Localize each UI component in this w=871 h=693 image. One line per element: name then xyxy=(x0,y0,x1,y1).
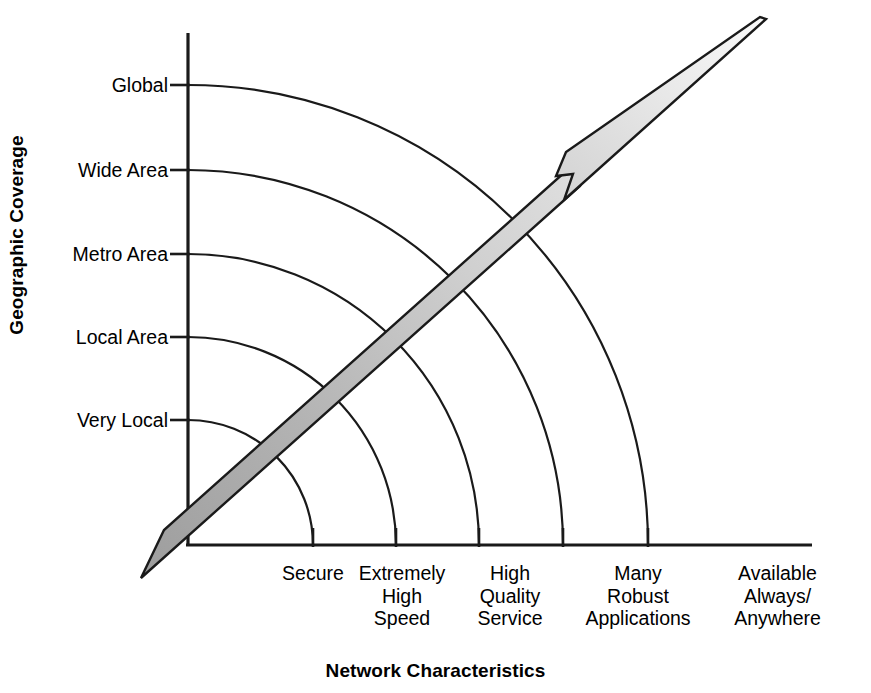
x-tick-label-extremely-high-speed-line-3: Speed xyxy=(340,607,464,630)
x-tick-label-available-always-anywhere: Available Always/ Anywhere xyxy=(710,562,845,630)
x-tick-label-high-quality-service: High Quality Service xyxy=(455,562,565,630)
y-axis-title-text: Geographic Coverage xyxy=(6,135,28,334)
axes xyxy=(186,33,812,546)
x-tick-label-many-robust-applications: Many Robust Applications xyxy=(563,562,713,630)
x-tick-label-available-always-anywhere-line-2: Always/ xyxy=(710,585,845,608)
network-evolution-diagram: Global Wide Area Metro Area Local Area V… xyxy=(0,0,871,693)
x-tick-label-many-robust-applications-line-3: Applications xyxy=(563,607,713,630)
y-axis-title: Geographic Coverage xyxy=(0,0,34,470)
arrow-shaft xyxy=(141,138,603,578)
progression-arrow xyxy=(141,17,766,578)
x-tick-label-available-always-anywhere-line-1: Available xyxy=(710,562,845,585)
x-tick-label-many-robust-applications-line-1: Many xyxy=(563,562,713,585)
x-tick-label-available-always-anywhere-line-3: Anywhere xyxy=(710,607,845,630)
arrow-head xyxy=(556,17,766,200)
x-tick-label-extremely-high-speed: Extremely High Speed xyxy=(340,562,464,630)
x-tick-label-high-quality-service-line-3: Service xyxy=(455,607,565,630)
x-tick-label-many-robust-applications-line-2: Robust xyxy=(563,585,713,608)
x-axis-title-text: Network Characteristics xyxy=(326,660,546,681)
x-axis-title: Network Characteristics xyxy=(0,660,871,682)
x-tick-label-extremely-high-speed-line-2: High xyxy=(340,585,464,608)
x-tick-label-high-quality-service-line-1: High xyxy=(455,562,565,585)
x-tick-label-high-quality-service-line-2: Quality xyxy=(455,585,565,608)
x-tick-label-extremely-high-speed-line-1: Extremely xyxy=(340,562,464,585)
